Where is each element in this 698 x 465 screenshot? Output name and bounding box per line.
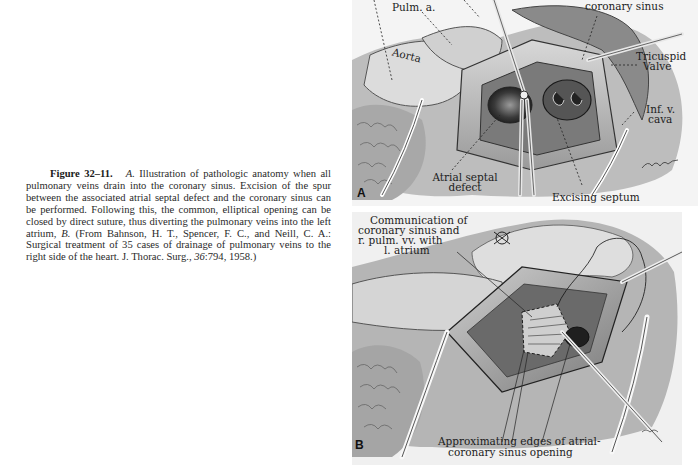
journal-pages: :794, 1958.) <box>205 251 257 262</box>
label-communication-4: l. atrium <box>384 245 430 255</box>
caption-text-2: (From Bahnson, H. T., Spencer, F. C., an… <box>26 228 331 263</box>
figure-caption: Figure 32–11. A. Illustration of patholo… <box>26 168 331 263</box>
label-approximating-2: coronary sinus opening <box>448 447 573 457</box>
label-excising-septum: Excising septum <box>552 192 640 202</box>
panel-letter-b: B <box>355 438 364 452</box>
journal-volume: 36 <box>194 251 205 262</box>
illustration-panel-b: Communication of coronary sinus and r. p… <box>352 212 682 465</box>
label-asd-2: defect <box>420 182 510 192</box>
panel-b-ref: B. <box>61 228 70 239</box>
label-approximating-1: Approximating edges of atrial- <box>438 436 600 446</box>
label-ivc-2: cava <box>648 114 672 124</box>
panel-a-ref: A. <box>126 168 135 179</box>
figure-label: Figure 32–11. <box>50 168 113 179</box>
panel-letter-a: A <box>357 186 366 200</box>
label-pulm-a: Pulm. a. <box>392 2 435 12</box>
illustration-panel-a: Pulm. a. coronary sinus Aorta Tricuspid … <box>352 0 698 206</box>
label-tricuspid-2: Valve <box>643 61 671 71</box>
label-coronary-sinus: coronary sinus <box>585 1 664 11</box>
